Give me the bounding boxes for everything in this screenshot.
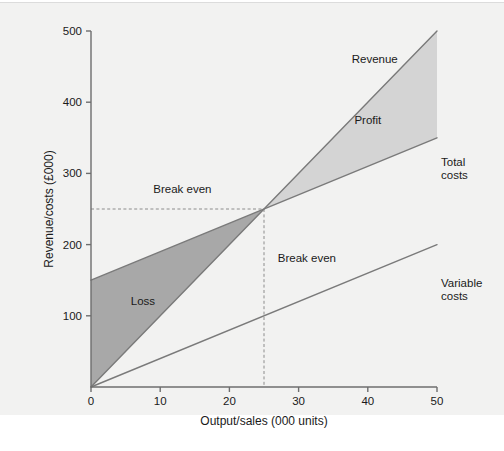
y-tick-label-300: 300 <box>63 167 82 179</box>
x-axis-title: Output/sales (000 units) <box>200 414 327 428</box>
x-tick-label-30: 30 <box>292 395 305 407</box>
total-costs-series-label-line2: costs <box>441 169 468 181</box>
profit-region-label: Profit <box>354 114 382 126</box>
y-axis-tick-labels: 100200300400500 <box>63 25 82 322</box>
break-even-horizontal-label: Break even <box>153 183 211 195</box>
x-tick-label-20: 20 <box>223 395 236 407</box>
x-tick-label-50: 50 <box>431 395 444 407</box>
x-tick-label-0: 0 <box>88 395 94 407</box>
break-even-vertical-label: Break even <box>278 252 336 264</box>
y-tick-label-400: 400 <box>63 96 82 108</box>
y-axis-title: Revenue/costs (£000) <box>42 150 56 267</box>
total-costs-series-label-line1: Total <box>441 156 465 168</box>
variable-costs-series-label-line1: Variable <box>441 277 482 289</box>
y-tick-label-200: 200 <box>63 239 82 251</box>
y-axis-ticks <box>86 31 91 316</box>
variable-costs-series-label-line2: costs <box>441 290 468 302</box>
x-axis-ticks <box>91 387 437 392</box>
x-tick-label-40: 40 <box>361 395 374 407</box>
x-tick-label-10: 10 <box>154 395 167 407</box>
x-axis-tick-labels: 01020304050 <box>88 395 444 407</box>
y-tick-label-500: 500 <box>63 25 82 37</box>
revenue-series-label: Revenue <box>352 53 398 65</box>
loss-region-label: Loss <box>131 295 156 307</box>
chart-canvas: 100200300400500 01020304050 Output/sales… <box>0 0 504 451</box>
break-even-chart-figure: 100200300400500 01020304050 Output/sales… <box>0 0 504 451</box>
y-tick-label-100: 100 <box>63 310 82 322</box>
